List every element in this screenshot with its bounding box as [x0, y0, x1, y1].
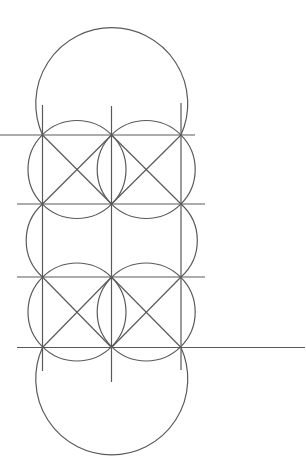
side-arc: [181, 204, 197, 277]
vertical-lines: [43, 103, 182, 382]
horizontal-lines: [0, 135, 305, 348]
geometric-construction-diagram: [0, 0, 306, 474]
side-arc: [26, 204, 42, 277]
